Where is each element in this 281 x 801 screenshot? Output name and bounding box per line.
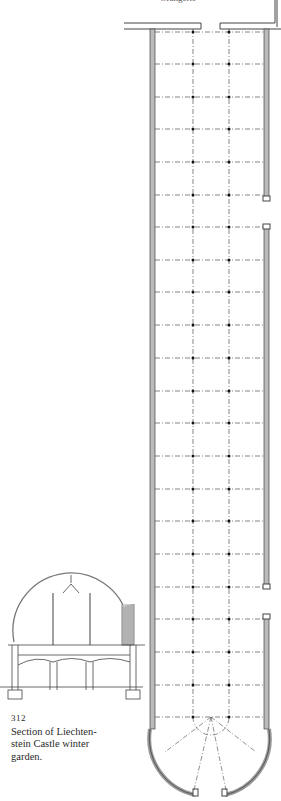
caption-line-1: Section of Liechten- — [11, 726, 121, 739]
floor-plan-drawing — [0, 0, 281, 801]
figure-caption: 312 Section of Liechten- stein Castle wi… — [11, 712, 121, 763]
figure-number: 312 — [11, 712, 121, 725]
section-drawing — [0, 573, 145, 699]
caption-line-3: garden. — [11, 751, 121, 764]
caption-line-2: stein Castle winter — [11, 738, 121, 751]
